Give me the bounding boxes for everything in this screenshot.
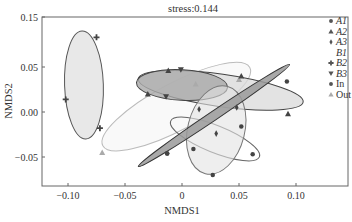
legend-item-a2: A2 xyxy=(328,26,347,37)
legend-label: A3 xyxy=(335,36,347,47)
point-in xyxy=(191,147,196,152)
point-out xyxy=(99,150,105,155)
y-tick-label: −0.05 xyxy=(15,152,38,163)
point-a1 xyxy=(165,151,170,156)
legend-marker-diamond-icon xyxy=(329,39,332,45)
y-tick-label: 0.15 xyxy=(21,12,39,23)
ellipse-b2 xyxy=(63,30,106,139)
y-axis: 0.150.050.00−0.05 xyxy=(15,12,45,163)
ellipse-layer xyxy=(63,30,306,180)
legend-item-in: In xyxy=(329,78,344,89)
legend-marker-circle-icon xyxy=(329,19,333,23)
legend-item-out: Out xyxy=(328,89,351,100)
point-b2 xyxy=(94,34,100,40)
y-tick-label: 0.00 xyxy=(21,107,39,118)
point-in xyxy=(211,173,216,178)
legend-marker-circle-icon xyxy=(329,82,333,86)
legend-item-b2: B2 xyxy=(328,57,347,68)
point-in xyxy=(239,124,244,128)
legend-label: B2 xyxy=(336,57,347,68)
legend-marker-triangle-up-icon xyxy=(328,92,333,97)
legend-item-b3: B3 xyxy=(328,68,347,79)
legend-marker-plus-icon xyxy=(328,60,333,65)
y-axis-label: NMDS2 xyxy=(3,83,14,119)
x-axis-label: NMDS1 xyxy=(164,205,200,216)
legend-marker-triangle-down-icon xyxy=(328,71,333,76)
legend-label: B3 xyxy=(336,68,347,79)
chart-title: stress:0.144 xyxy=(168,3,219,14)
point-a1 xyxy=(285,79,290,84)
legend-label: In xyxy=(336,78,344,89)
legend-label: A1 xyxy=(335,15,347,26)
x-tick-label: −0.10 xyxy=(56,190,79,201)
legend-item-a3: A3 xyxy=(329,36,347,47)
legend-marker-triangle-up-icon xyxy=(328,29,333,34)
x-tick-label: 0.05 xyxy=(230,190,248,201)
legend-label: A2 xyxy=(335,26,347,37)
y-tick-label: 0.05 xyxy=(21,62,39,73)
legend-label: B1 xyxy=(336,47,347,58)
nmds-chart: stress:0.144 −0.10−0.0500.050.10 0.150.0… xyxy=(0,0,352,222)
point-a2 xyxy=(285,111,291,116)
x-tick-label: 0 xyxy=(180,190,185,201)
legend-item-b1: B1 xyxy=(336,47,347,58)
x-tick-label: 0.10 xyxy=(287,190,305,201)
point-in xyxy=(250,152,255,157)
x-tick-label: −0.05 xyxy=(113,190,136,201)
legend-label: Out xyxy=(336,89,351,100)
